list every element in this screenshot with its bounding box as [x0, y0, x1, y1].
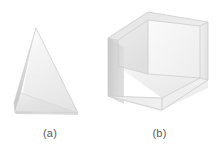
cube-left-outer-wall [108, 38, 124, 104]
caption-b: (b) [100, 128, 219, 139]
cube-inner-back-right-face [148, 20, 200, 78]
caption-a: (a) [0, 128, 100, 139]
figure-root: (a) [0, 0, 219, 150]
cube-right-outer-wall [200, 22, 208, 80]
figure-panel-b: (b) [100, 0, 219, 150]
figure-panel-a: (a) [0, 0, 100, 150]
